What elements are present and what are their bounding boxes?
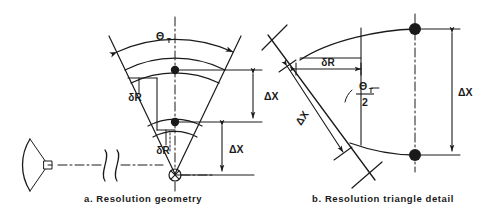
detail-half-angle-arc — [345, 90, 352, 102]
label-detail-delta-r: δR — [321, 57, 335, 68]
figure-container: Θ T δR δR ΔX ΔX δR Θ T 2 ΔX ΔX a. Resolu… — [0, 0, 487, 212]
label-detail-half-angle-denominator: 2 — [362, 96, 368, 108]
label-detail-delta-x-diagonal: ΔX — [293, 108, 311, 127]
label-beamwidth-theta: Θ — [156, 30, 164, 42]
label-delta-x-lower: ΔX — [229, 143, 244, 155]
panel-b-group — [0, 0, 460, 188]
detail-edge-cap-bottom — [352, 162, 382, 188]
parabolic-dish-antenna — [23, 139, 31, 191]
detail-arc-lower — [350, 143, 415, 155]
label-beamwidth-subscript: T — [167, 37, 172, 44]
resolution-geometry-figure: Θ T δR δR ΔX ΔX δR Θ T 2 ΔX ΔX — [0, 0, 487, 212]
label-delta-r-upper: δR — [128, 92, 142, 103]
caption-panel-a: a. Resolution geometry — [84, 193, 202, 204]
detail-arc-upper — [300, 29, 415, 60]
labels-group: Θ T δR δR ΔX ΔX δR Θ T 2 ΔX ΔX — [128, 30, 472, 156]
label-delta-x-upper: ΔX — [264, 90, 279, 102]
detail-edge-cap-top — [262, 25, 287, 50]
label-detail-half-angle-numerator: Θ — [359, 80, 367, 92]
panel-a-group — [23, 17, 263, 192]
detail-delta-x-diagonal-dimension — [287, 66, 343, 152]
break-line-symbol-2 — [115, 150, 118, 181]
label-detail-delta-x-vertical: ΔX — [458, 86, 473, 98]
detail-delta-x-tick-bottom — [334, 147, 352, 160]
label-delta-r-lower: δR — [156, 145, 170, 156]
caption-panel-b: b. Resolution triangle detail — [312, 193, 454, 204]
label-detail-half-angle-subscript: T — [369, 87, 374, 94]
break-line-symbol-1 — [103, 150, 106, 181]
